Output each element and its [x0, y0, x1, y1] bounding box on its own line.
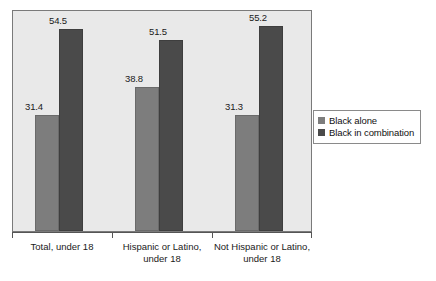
bar-black-alone-total-under-18: [35, 115, 59, 231]
legend-label: Black alone: [329, 115, 377, 126]
bar-chart: 31.4 54.5 38.8 51.5 31.3 55.2 Total, und…: [0, 0, 436, 281]
legend-label: Black in combination: [329, 127, 414, 138]
bar-black-in-combination-hispanic-or-latino-under-18: [159, 40, 183, 231]
plot-area: [12, 10, 312, 232]
value-label-black-in-combination-hispanic-or-latino-under-18: 51.5: [144, 26, 172, 37]
x-axis-label-hispanic-or-latino-under-18: Hispanic or Latino, under 18: [112, 241, 212, 264]
legend: Black alone Black in combination: [313, 110, 421, 144]
value-label-black-in-combination-not-hispanic-or-latino-under-18: 55.2: [244, 12, 272, 23]
value-label-black-in-combination-total-under-18: 54.5: [44, 15, 72, 26]
value-label-black-alone-hispanic-or-latino-under-18: 38.8: [120, 73, 148, 84]
legend-swatch-icon: [318, 117, 325, 124]
x-axis-tick: [112, 232, 113, 238]
bar-black-in-combination-not-hispanic-or-latino-under-18: [259, 26, 283, 231]
x-axis-label-not-hispanic-or-latino-under-18: Not Hispanic or Latino, under 18: [210, 241, 314, 264]
value-label-black-alone-not-hispanic-or-latino-under-18: 31.3: [220, 101, 248, 112]
x-axis-label-total-under-18: Total, under 18: [12, 241, 112, 253]
bar-black-in-combination-total-under-18: [59, 29, 83, 231]
legend-swatch-icon: [318, 129, 325, 136]
x-axis-line: [12, 232, 312, 233]
legend-item-black-alone: Black alone: [318, 115, 416, 126]
x-axis-tick: [212, 232, 213, 238]
bar-black-alone-hispanic-or-latino-under-18: [135, 87, 159, 231]
x-axis-tick: [311, 232, 312, 238]
bar-black-alone-not-hispanic-or-latino-under-18: [235, 115, 259, 231]
legend-item-black-in-combination: Black in combination: [318, 127, 416, 138]
value-label-black-alone-total-under-18: 31.4: [20, 101, 48, 112]
x-axis-tick: [12, 232, 13, 238]
